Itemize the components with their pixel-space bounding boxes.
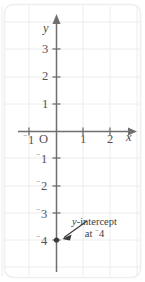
y-tick-value: 3 [41, 207, 47, 221]
y-tick-label-1: 1 [42, 98, 48, 111]
y-tick-value: 2 [42, 69, 48, 83]
x-tick-value: 1 [80, 132, 86, 146]
x-tick-label-2: 2 [107, 133, 113, 146]
y-tick-label-neg3: ⁻3 [36, 207, 47, 220]
y-tick-label-neg2: ⁻2 [36, 179, 47, 192]
y-tick-value: 1 [42, 97, 48, 111]
x-tick-label-1: 1 [80, 133, 86, 146]
x-tick-value: 1 [28, 133, 34, 147]
annotation-value: 4 [99, 228, 104, 239]
coordinate-grid-svg [0, 0, 145, 282]
x-axis-label: x [126, 131, 132, 144]
y-axis-label: y [43, 22, 49, 35]
origin-label: O [39, 133, 48, 146]
y-tick-value: 2 [41, 179, 47, 193]
y-tick-value: 4 [41, 234, 47, 248]
annotation-line-2: at ⁻4 [72, 228, 117, 240]
y-intercept-annotation: y-intercept at ⁻4 [72, 216, 117, 240]
y-tick-label-3: 3 [42, 43, 48, 56]
y-tick-label-2: 2 [42, 70, 48, 83]
y-intercept-point [54, 237, 59, 242]
y-tick-label-neg4: ⁻4 [36, 234, 47, 247]
y-tick-value: 3 [42, 42, 48, 56]
y-tick-value: 1 [41, 152, 47, 166]
x-tick-label-neg1: ⁻1 [23, 133, 34, 146]
coordinate-grid-figure: y x O ⁻1 1 2 3 2 1 ⁻1 ⁻2 ⁻3 ⁻4 y-interce… [0, 0, 145, 282]
y-tick-label-neg1: ⁻1 [36, 152, 47, 165]
annotation-text: -intercept [77, 216, 117, 227]
annotation-prefix: at [85, 228, 95, 239]
x-tick-value: 2 [107, 132, 113, 146]
